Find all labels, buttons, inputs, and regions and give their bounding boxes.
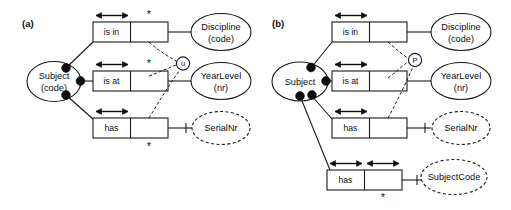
object-type-serialnr-b-name: SerialNr xyxy=(444,123,477,133)
uniqueness-bar-b-has-subjectcode-role2 xyxy=(367,161,399,167)
object-type-yearlevel-b-ellipse xyxy=(431,63,491,100)
fact-type-b-has: has xyxy=(332,109,407,138)
fact-type-b-is-in: is in xyxy=(332,13,407,42)
mandatory-dot-a-1 xyxy=(62,64,71,73)
object-type-yearlevel-b-refmode: (nr) xyxy=(454,83,468,93)
uniqueness-bar-b-is-in xyxy=(335,13,367,19)
mandatory-dot-b-1 xyxy=(307,63,316,72)
fact-type-has-predicate: has xyxy=(105,123,119,133)
mandatory-dot-b-2 xyxy=(322,77,331,86)
object-type-subject-a: Subject (code) xyxy=(27,62,81,102)
fact-type-b-is-at-predicate: is at xyxy=(343,76,359,86)
object-type-subject-b-name: Subject xyxy=(285,77,316,87)
object-type-discipline-b: Discipline (code) xyxy=(431,14,491,51)
object-type-discipline-b-refmode: (code) xyxy=(448,34,474,44)
mandatory-dot-a-3 xyxy=(62,91,71,100)
fact-type-is-at: is at * xyxy=(93,57,168,91)
connector-b-subject-has-subjectcode xyxy=(300,96,330,170)
fact-type-is-at-predicate: is at xyxy=(104,76,120,86)
frequency-marker-b-has-subjectcode: * xyxy=(381,191,386,203)
object-type-yearlevel-a: YearLevel (nr) xyxy=(191,63,251,100)
frequency-marker-is-in: * xyxy=(147,8,152,20)
object-type-discipline-b-name: Discipline xyxy=(441,22,480,32)
fact-type-b-has-predicate: has xyxy=(344,123,358,133)
connector-subject-has xyxy=(66,95,93,119)
uniqueness-bar-b-is-at xyxy=(335,62,367,68)
mandatory-dot-a-2 xyxy=(76,77,85,86)
object-type-yearlevel-b: YearLevel (nr) xyxy=(431,63,491,100)
connector-subject-is-in xyxy=(66,42,93,68)
fact-type-b-has-subjectcode-predicate: has xyxy=(339,175,353,185)
frequency-marker-is-at: * xyxy=(147,57,152,69)
fact-type-b-is-at: is at xyxy=(332,62,407,91)
panel-a-label: (a) xyxy=(22,18,34,29)
object-type-yearlevel-b-name: YearLevel xyxy=(441,71,482,81)
fact-type-b-has-subjectcode: has * xyxy=(327,161,402,203)
uniqueness-bar-b-has xyxy=(335,109,367,115)
uniqueness-bar-b-has-subjectcode-role1 xyxy=(330,161,362,167)
external-uniqueness-symbol-a: u xyxy=(181,59,185,68)
uniqueness-bar-has xyxy=(96,109,128,115)
object-type-discipline-a-refmode: (code) xyxy=(208,34,234,44)
object-type-serialnr-a-name: SerialNr xyxy=(204,123,237,133)
object-type-yearlevel-a-name: YearLevel xyxy=(201,71,242,81)
object-type-serialnr-b: SerialNr xyxy=(432,112,490,145)
panel-b: (b) is in xyxy=(272,13,491,203)
object-type-subject-a-ellipse xyxy=(27,62,81,102)
fact-type-is-in-predicate: is in xyxy=(104,27,120,37)
panel-a: (a) is in * xyxy=(22,8,251,152)
object-type-subjectcode-b: SubjectCode xyxy=(421,160,487,195)
object-type-discipline-a-ellipse xyxy=(191,14,251,51)
object-type-subjectcode-b-name: SubjectCode xyxy=(428,172,481,182)
mandatory-dot-b-4 xyxy=(308,91,317,100)
panel-b-label: (b) xyxy=(272,18,284,29)
fact-type-has: has * xyxy=(93,109,168,152)
object-type-discipline-b-ellipse xyxy=(431,14,491,51)
uniqueness-bar-is-at xyxy=(96,62,128,68)
object-type-discipline-a: Discipline (code) xyxy=(191,14,251,51)
object-type-yearlevel-a-ellipse xyxy=(191,63,251,100)
orm-diagram-canvas: (a) is in * xyxy=(0,0,511,210)
object-type-yearlevel-a-refmode: (nr) xyxy=(214,83,228,93)
frequency-marker-has: * xyxy=(147,140,152,152)
object-type-discipline-a-name: Discipline xyxy=(201,22,240,32)
fact-type-b-is-in-predicate: is in xyxy=(343,27,359,37)
object-type-serialnr-a: SerialNr xyxy=(192,112,250,145)
uniqueness-bar-is-in xyxy=(96,13,128,19)
mandatory-dot-b-3 xyxy=(296,92,305,101)
preferred-identifier-symbol-b: P xyxy=(412,56,417,65)
orm-diagram-figure: (a) is in * xyxy=(0,0,511,210)
fact-type-is-in: is in * xyxy=(93,8,168,42)
